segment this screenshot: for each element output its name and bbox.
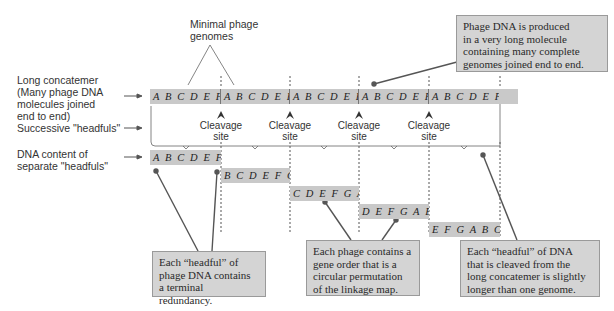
headful-segment-5: E F G A B C D E	[429, 222, 500, 237]
concatemer-bar: A B C D E F G A B C D E F G A B C D E F …	[150, 89, 518, 104]
callout-circular-permutation: Each phage contains a gene order that is…	[306, 240, 420, 296]
headful-segment-2: B C D E F G A B	[221, 168, 290, 183]
phage-headful-diagram: Long concatemer (Many phage DNA molecule…	[0, 0, 614, 311]
minimal-genome-lines	[188, 45, 234, 85]
concatemer-unit: A B C D E F G	[290, 89, 359, 104]
cleavage-site-label: Cleavage site	[265, 120, 315, 142]
cleavage-arrowheads	[217, 111, 433, 119]
headful-segment-3: C D E F G A B C	[290, 186, 359, 201]
left-arrows	[124, 94, 142, 159]
concatemer-unit: A B C D E F G	[429, 89, 499, 104]
callout-terminal-redundancy: Each “headful” of phage DNA contains a t…	[152, 251, 266, 297]
cleavage-site-label: Cleavage site	[404, 120, 454, 142]
callout-long-molecule: Phage DNA is produced in a very long mol…	[456, 15, 608, 72]
concatemer-unit: A B C D E F G	[359, 89, 429, 104]
cleavage-site-label: Cleavage site	[334, 120, 384, 142]
headful-segment-4: D E F G A B C D	[359, 204, 429, 219]
concatemer-unit: A B C D E F G	[150, 89, 221, 104]
concatemer-unit: A B C D E F G	[221, 89, 290, 104]
callout-slightly-longer: Each “headful” of DNA that is cleaved fr…	[460, 240, 600, 297]
cleavage-site-label: Cleavage site	[196, 120, 246, 142]
headful-segment-1: A B C D E F G A	[150, 150, 221, 165]
